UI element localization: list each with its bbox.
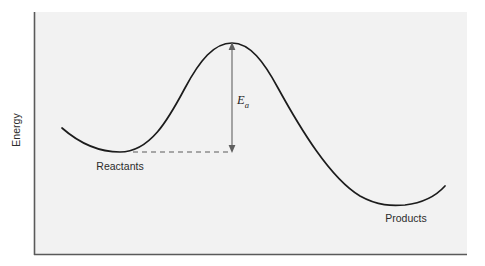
activation-energy-subscript: a [245, 100, 249, 110]
reactants-label: Reactants [96, 160, 143, 172]
energy-diagram-figure: Energy Ea Reactants Products [0, 0, 485, 266]
products-label: Products [385, 212, 426, 224]
activation-energy-symbol: E [236, 93, 245, 107]
y-axis-label: Energy [10, 113, 22, 147]
reaction-coordinate-diagram: Energy Ea Reactants Products [0, 0, 485, 266]
